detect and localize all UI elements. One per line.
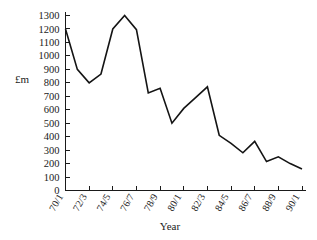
x-tick-label: 78/9 [141,192,159,213]
x-tick-label: 80/1 [165,192,183,213]
y-tick-label: 100 [44,172,60,183]
x-axis-title: Year [160,220,181,232]
y-tick-label: 1100 [39,37,60,48]
x-tick-label: 88/9 [260,192,278,213]
y-axis-title: £m [15,73,30,85]
y-tick-label: 700 [44,91,60,102]
y-tick-label: 1200 [39,24,60,35]
y-tick-label: 600 [44,104,60,115]
x-tick-label: 86/7 [236,192,254,213]
y-tick-label: 800 [44,77,60,88]
y-tick-label: 200 [44,158,60,169]
y-axis-tick-labels: 0100200300400500600700800900100011001200… [39,10,60,196]
y-tick-label: 300 [44,145,60,156]
chart-canvas: 0100200300400500600700800900100011001200… [0,0,317,240]
x-tick-label: 70/1 [47,192,65,213]
x-axis-ticks [66,186,303,191]
x-tick-label: 72/3 [70,192,88,213]
x-tick-label: 76/7 [118,192,136,213]
data-series-line [66,16,303,169]
x-tick-label: 84/5 [212,192,230,213]
y-tick-label: 900 [44,64,60,75]
y-tick-label: 1300 [39,10,60,21]
x-axis-tick-labels: 70/172/374/576/778/980/182/384/586/788/9… [47,192,302,213]
line-chart: 0100200300400500600700800900100011001200… [0,0,317,240]
y-tick-label: 500 [44,118,60,129]
x-tick-label: 90/1 [283,192,301,213]
x-tick-label: 74/5 [94,192,112,213]
y-tick-label: 1000 [39,50,60,61]
x-tick-label: 82/3 [189,192,207,213]
y-tick-label: 400 [44,131,60,142]
